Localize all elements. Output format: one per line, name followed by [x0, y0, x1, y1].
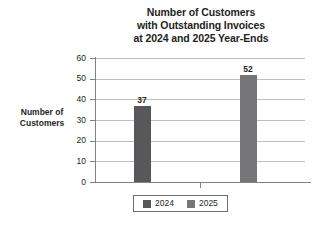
gridline-50: [96, 79, 305, 80]
legend-item-2024[interactable]: 2024: [143, 199, 174, 208]
plot-area: [96, 58, 305, 182]
chart-title: Number of Customers with Outstanding Inv…: [96, 6, 306, 45]
y-tick-0: [90, 182, 96, 183]
legend-label-2024: 2024: [155, 199, 174, 208]
gridline-60: [96, 58, 305, 59]
y-tick-20: [90, 141, 96, 142]
gridline-30: [96, 120, 305, 121]
bar-2024: [134, 106, 151, 183]
gridline-10: [96, 161, 305, 162]
y-tick-10: [90, 161, 96, 162]
legend-swatch-2024-icon: [143, 200, 151, 208]
y-tick-label-60: 60: [60, 54, 86, 63]
chart-title-line-3: at 2024 and 2025 Year-Ends: [96, 32, 306, 45]
x-axis-line: [95, 182, 311, 183]
chart-title-line-1: Number of Customers: [96, 6, 306, 19]
legend-item-2025[interactable]: 2025: [187, 199, 218, 208]
y-tick-label-0: 0: [60, 178, 86, 187]
y-tick-40: [90, 99, 96, 100]
chart-legend: 2024 2025: [133, 195, 228, 212]
bar-2025: [240, 75, 257, 183]
y-tick-label-40: 40: [60, 95, 86, 104]
bar-label-2024: 37: [125, 95, 159, 105]
y-tick-label-10: 10: [60, 157, 86, 166]
gridline-20: [96, 141, 305, 142]
y-tick-label-50: 50: [60, 74, 86, 83]
bar-label-2025: 52: [231, 64, 265, 74]
y-tick-label-20: 20: [60, 136, 86, 145]
y-tick-30: [90, 120, 96, 121]
legend-label-2025: 2025: [199, 199, 218, 208]
y-tick-60: [90, 58, 96, 59]
x-axis-center-tick: [200, 183, 201, 188]
y-tick-50: [90, 79, 96, 80]
y-tick-label-30: 30: [60, 116, 86, 125]
chart-title-line-2: with Outstanding Invoices: [96, 19, 306, 32]
legend-swatch-2025-icon: [187, 200, 195, 208]
